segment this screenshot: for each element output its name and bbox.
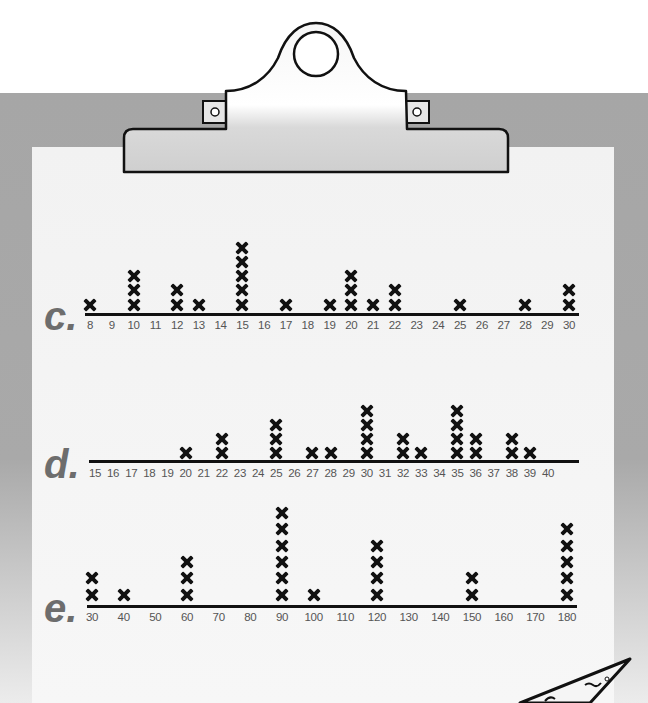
tick-label: 25 [270,467,282,479]
tick-label: 24 [252,467,264,479]
x-mark-icon [276,588,289,601]
tick-label: 16 [107,467,119,479]
x-mark-icon [466,588,479,601]
tick-label: 8 [87,319,93,331]
plot-label-e: e. [44,588,77,628]
tick-label: 9 [109,319,115,331]
tick-label: 19 [161,467,173,479]
tick-label: 12 [171,319,183,331]
x-mark-icon [454,298,467,311]
clipboard-clip-icon [0,0,648,190]
x-mark-icon [561,588,574,601]
tick-label: 180 [558,611,576,623]
x-mark-icon [469,446,482,459]
x-mark-icon [388,284,401,297]
tick-label: 30 [563,319,575,331]
x-mark-icon [86,588,99,601]
x-mark-icon [236,298,249,311]
x-mark-icon [307,588,320,601]
x-mark-icon [279,298,292,311]
x-mark-icon [215,446,228,459]
x-mark-icon [127,270,140,283]
tick-label: 17 [280,319,292,331]
tick-label: 19 [323,319,335,331]
x-mark-icon [171,284,184,297]
tick-label: 160 [495,611,513,623]
x-mark-icon [397,446,410,459]
x-mark-icon [306,446,319,459]
x-mark-icon [276,507,289,520]
x-mark-icon [192,298,205,311]
x-mark-icon [397,432,410,445]
x-mark-icon [505,446,518,459]
x-mark-icon [360,405,373,418]
tick-label: 120 [368,611,386,623]
tick-label: 39 [524,467,536,479]
x-mark-icon [451,405,464,418]
tick-label: 38 [506,467,518,479]
tick-label: 15 [89,467,101,479]
tick-label: 90 [276,611,288,623]
tick-label: 35 [451,467,463,479]
x-mark-icon [523,446,536,459]
tick-label: 16 [258,319,270,331]
tick-label: 10 [127,319,139,331]
x-mark-icon [236,241,249,254]
x-mark-icon [324,446,337,459]
x-mark-icon [171,298,184,311]
x-mark-icon [127,284,140,297]
tick-label: 27 [498,319,510,331]
x-mark-icon [360,432,373,445]
tick-label: 40 [118,611,130,623]
x-mark-icon [276,555,289,568]
x-mark-icon [84,298,97,311]
x-mark-icon [466,572,479,585]
x-mark-icon [270,446,283,459]
x-mark-icon [181,555,194,568]
x-mark-icon [388,298,401,311]
tick-label: 18 [302,319,314,331]
number-line-e [87,605,577,608]
tick-label: 28 [519,319,531,331]
tick-label: 29 [343,467,355,479]
plot-label-c: c. [44,296,77,336]
x-mark-icon [371,555,384,568]
tick-label: 37 [488,467,500,479]
x-mark-icon [179,446,192,459]
x-mark-icon [86,572,99,585]
x-mark-icon [451,418,464,431]
tick-label: 24 [432,319,444,331]
tick-label: 27 [306,467,318,479]
x-mark-icon [371,539,384,552]
tick-label: 60 [181,611,193,623]
x-mark-icon [563,298,576,311]
x-mark-icon [469,432,482,445]
tick-label: 40 [542,467,554,479]
x-mark-icon [345,270,358,283]
tick-label: 28 [324,467,336,479]
x-mark-icon [561,539,574,552]
tick-label: 20 [345,319,357,331]
number-line-c [85,313,579,316]
tick-label: 11 [150,319,161,331]
x-mark-icon [415,446,428,459]
tick-label: 70 [213,611,225,623]
x-mark-icon [561,523,574,536]
plot-label-d: d. [44,444,80,484]
tick-label: 130 [400,611,418,623]
x-mark-icon [236,270,249,283]
tick-label: 34 [433,467,445,479]
x-mark-icon [451,446,464,459]
tick-label: 29 [541,319,553,331]
x-mark-icon [270,418,283,431]
x-mark-icon [181,572,194,585]
x-mark-icon [127,298,140,311]
tick-label: 30 [361,467,373,479]
tick-label: 170 [526,611,544,623]
x-mark-icon [360,418,373,431]
x-mark-icon [215,432,228,445]
tick-label: 31 [379,467,391,479]
tick-label: 140 [431,611,449,623]
x-mark-icon [270,432,283,445]
tick-label: 80 [244,611,256,623]
